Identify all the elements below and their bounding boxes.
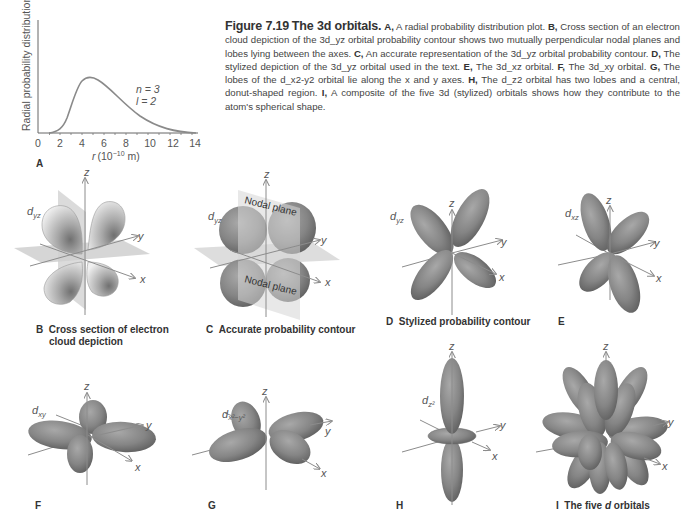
n-annotation: n = 3 — [136, 83, 160, 95]
x-label: x — [324, 276, 331, 288]
caption-part-a: A radial probability distribution plot. — [396, 21, 545, 32]
l-annotation: l = 2 — [136, 95, 156, 107]
y-label: y — [324, 425, 332, 437]
svg-text:2: 2 — [57, 137, 63, 149]
caption-part-f-letter: F, — [558, 61, 565, 72]
y-label: y — [137, 230, 145, 242]
x-axis-label: r(10−10 m) — [92, 150, 140, 162]
y-label: y — [653, 237, 661, 249]
y-label: y — [667, 416, 675, 428]
x-axis — [302, 459, 320, 469]
panel-h-dz2: z y x dz² — [380, 340, 530, 510]
panel-d-caption: Stylized probability contour — [399, 316, 531, 327]
panel-i-five-d-orbitals: z y x — [520, 340, 686, 500]
svg-text:12: 12 — [167, 137, 179, 149]
svg-text:10: 10 — [144, 137, 156, 149]
radial-curve — [49, 78, 196, 134]
z-label: z — [605, 194, 612, 206]
y-label: y — [320, 234, 328, 246]
orbital-label: dxy — [32, 404, 47, 419]
x-label: x — [320, 467, 327, 479]
svg-text:8: 8 — [123, 137, 129, 149]
caption-part-a-letter: A, — [384, 21, 394, 32]
z-label: z — [448, 340, 455, 352]
orbital-label: dyz — [208, 210, 222, 225]
panel-label-g: G — [208, 500, 216, 512]
caption-part-e: The 3d_xz orbital. — [476, 61, 554, 72]
svg-text:6: 6 — [101, 137, 107, 149]
caption-part-e-letter: E, — [464, 61, 473, 72]
panel-e-dxz: z y x dxz — [530, 170, 686, 320]
panel-label-d: D Stylized probability contour — [386, 316, 530, 328]
panel-label-f: F — [35, 500, 41, 512]
svg-text:0: 0 — [35, 137, 41, 149]
x-label: x — [139, 273, 146, 285]
x-label: x — [134, 461, 141, 473]
figure-title: The 3d orbitals. — [292, 19, 382, 33]
z-label: z — [602, 340, 609, 352]
orbital-label: dyz — [27, 205, 41, 220]
x-label: x — [661, 460, 668, 472]
panel-c-accurate-contour: z y x dyz Nodal plane Nodal plane — [180, 170, 380, 320]
panel-b-cross-section: z y x dyz — [0, 170, 180, 320]
figure-caption: Figure 7.19 The 3d orbitals. A, A radial… — [225, 20, 680, 113]
panel-label-b: B Cross section of electron cloud depict… — [36, 324, 169, 348]
caption-part-d-letter: D, — [651, 48, 661, 59]
panel-b-caption-2: cloud depiction — [36, 336, 123, 347]
orbital-label: dyz — [390, 210, 404, 225]
y-axis-label: Radial probability distribution — [20, 0, 32, 131]
z-label: z — [448, 197, 455, 209]
z-label: z — [83, 166, 90, 178]
panel-b-caption-1: Cross section of electron — [49, 324, 169, 335]
y-axis — [476, 426, 500, 432]
caption-part-c: An accurate representation of the 3d_yz … — [366, 48, 649, 59]
z-label: z — [261, 385, 268, 397]
figure-number: Figure 7.19 — [225, 19, 289, 33]
panel-c-caption: Accurate probability contour — [219, 324, 356, 335]
y-label: y — [145, 419, 153, 431]
panel-label-e: E — [558, 316, 565, 328]
x-label: x — [655, 272, 662, 284]
x-label: x — [491, 450, 498, 462]
lobe-lower-right — [87, 262, 118, 296]
panel-label-c: C Accurate probability contour — [206, 324, 355, 336]
svg-text:14: 14 — [189, 137, 201, 149]
orbital-label: dxz — [565, 207, 579, 222]
caption-part-c-letter: C, — [354, 48, 364, 59]
svg-text:4: 4 — [79, 137, 85, 149]
caption-part-g-letter: G, — [650, 61, 660, 72]
panel-label-i: I The five d orbitals — [556, 500, 650, 512]
x-axis — [472, 442, 490, 450]
panel-label-a: A — [36, 158, 43, 170]
caption-part-b-letter: B, — [548, 21, 558, 32]
panel-f-dxy: z y x dxy — [0, 355, 190, 495]
z-label: z — [263, 168, 270, 180]
orbital-label: dz² — [422, 394, 435, 409]
x-label: x — [498, 271, 505, 283]
z-label: z — [83, 380, 90, 392]
lobe-front — [67, 435, 93, 473]
composite-lobes — [540, 360, 669, 494]
x-tick-labels: 0 2 4 6 8 10 12 14 — [35, 137, 201, 149]
y-label: y — [500, 236, 508, 248]
panel-g-dx2-y2: z y x dx²−y² — [190, 355, 390, 495]
panel-d-stylized-dyz: z y x dyz — [380, 170, 530, 320]
y-label: y — [499, 419, 507, 431]
caption-part-i-letter: I, — [322, 87, 327, 98]
caption-part-h-letter: H, — [468, 74, 478, 85]
lobe-lower-right — [448, 245, 502, 295]
radial-distribution-chart: 0 2 4 6 8 10 12 14 Radial probability di… — [0, 0, 215, 170]
caption-part-f: The 3d_xy orbital. — [568, 61, 646, 72]
panel-label-h: H — [396, 500, 403, 512]
